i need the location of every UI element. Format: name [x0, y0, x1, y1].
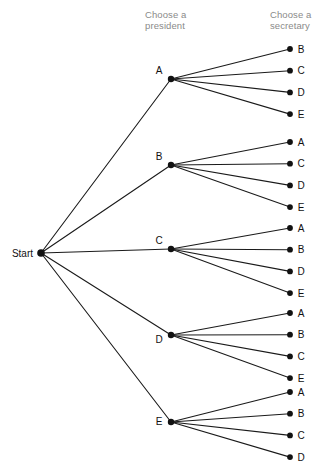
secretary-label-d-c: C: [297, 351, 304, 362]
secretary-label-d-e: E: [298, 373, 305, 384]
secretary-label-b-a: A: [298, 137, 305, 148]
secretary-node-e-d: [287, 454, 293, 460]
edge-b-to-d: [171, 165, 290, 185]
president-node-c: [168, 246, 174, 252]
secretary-node-d-a: [287, 310, 293, 316]
secretary-node-b-a: [287, 139, 293, 145]
edge-e-to-d: [171, 422, 290, 457]
president-label-a: A: [156, 65, 163, 76]
president-node-b: [168, 162, 174, 168]
tree-nodes-layer: [37, 46, 293, 460]
secretary-label-e-a: A: [298, 387, 305, 398]
edge-c-to-d: [171, 249, 290, 271]
secretary-node-e-b: [287, 411, 293, 417]
secretary-node-a-e: [287, 111, 293, 117]
secretary-label-c-d: D: [297, 266, 304, 277]
secretary-node-d-b: [287, 332, 293, 338]
president-label-e: E: [156, 416, 163, 427]
edge-d-to-c: [171, 335, 290, 356]
probability-tree-diagram: StartABCDEBACDECABDEDABCEEABCD: [0, 0, 323, 469]
secretary-node-c-a: [287, 225, 293, 231]
secretary-node-e-c: [287, 433, 293, 439]
edge-start-to-b: [41, 165, 171, 253]
edge-c-to-b: [171, 249, 290, 250]
president-label-b: B: [156, 151, 163, 162]
secretary-node-c-b: [287, 247, 293, 253]
secretary-label-c-b: B: [298, 244, 305, 255]
president-label-d: D: [155, 334, 162, 345]
secretary-label-e-d: D: [297, 452, 304, 463]
secretary-label-a-c: C: [297, 65, 304, 76]
edge-start-to-a: [41, 79, 171, 253]
president-node-e: [168, 419, 174, 425]
secretary-node-e-a: [287, 389, 293, 395]
secretary-label-e-b: B: [298, 408, 305, 419]
tree-edges-layer: [41, 49, 290, 457]
secretary-node-b-e: [287, 204, 293, 210]
secretary-label-b-e: E: [298, 202, 305, 213]
edge-start-to-c: [41, 249, 171, 253]
edge-b-to-e: [171, 165, 290, 207]
edge-d-to-a: [171, 313, 290, 335]
edge-c-to-e: [171, 249, 290, 293]
edge-d-to-e: [171, 335, 290, 378]
president-node-a: [168, 76, 174, 82]
edge-b-to-c: [171, 164, 290, 165]
president-label-c: C: [155, 235, 162, 246]
secretary-label-c-a: A: [298, 223, 305, 234]
secretary-node-b-c: [287, 161, 293, 167]
edge-b-to-a: [171, 142, 290, 165]
edge-a-to-d: [171, 79, 290, 92]
secretary-node-b-d: [287, 183, 293, 189]
secretary-node-d-e: [287, 375, 293, 381]
edge-start-to-d: [41, 253, 171, 335]
secretary-label-d-a: A: [298, 308, 305, 319]
secretary-node-d-c: [287, 354, 293, 360]
secretary-label-a-b: B: [298, 44, 305, 55]
secretary-node-c-d: [287, 269, 293, 275]
secretary-label-e-c: C: [297, 430, 304, 441]
edge-start-to-e: [41, 253, 171, 422]
edge-e-to-c: [171, 422, 290, 435]
start-node: [37, 249, 45, 257]
secretary-label-c-e: E: [298, 288, 305, 299]
president-node-d: [168, 332, 174, 338]
start-label: Start: [12, 248, 33, 259]
secretary-node-a-d: [287, 90, 293, 96]
secretary-node-a-c: [287, 68, 293, 74]
secretary-label-b-d: D: [297, 180, 304, 191]
secretary-label-b-c: C: [297, 158, 304, 169]
secretary-node-a-b: [287, 46, 293, 52]
secretary-label-a-d: D: [297, 87, 304, 98]
edge-c-to-a: [171, 228, 290, 249]
secretary-label-a-e: E: [298, 109, 305, 120]
secretary-node-c-e: [287, 290, 293, 296]
secretary-label-d-b: B: [298, 329, 305, 340]
edge-a-to-e: [171, 79, 290, 114]
